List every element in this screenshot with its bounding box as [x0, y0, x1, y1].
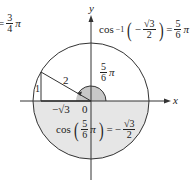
opposite-label: 1 — [35, 84, 40, 94]
top-left-partial-equation: = 3 4 π — [0, 13, 21, 34]
y-axis-label: y — [89, 3, 94, 14]
angle-fraction: 5 6 — [100, 62, 107, 83]
x-axis-arrow-icon — [164, 99, 171, 104]
y-axis-arrow-icon — [89, 15, 94, 22]
arccos-equation: cos−1 ( − √3 2 ) = 5 6 π — [99, 19, 189, 40]
hypotenuse-label: 2 — [63, 75, 69, 86]
adjacent-label: −√3 — [52, 104, 70, 115]
x-axis-label: x — [173, 95, 178, 106]
angle-label: 5 6 π — [100, 62, 115, 83]
origin-label: 0 — [82, 104, 88, 115]
cos-equation: cos ( 5 6 π ) = − √3 2 — [56, 119, 135, 140]
